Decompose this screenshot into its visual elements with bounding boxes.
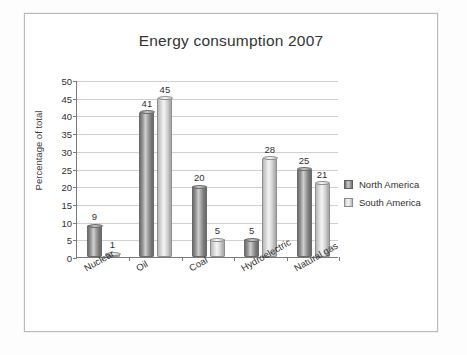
bar-value-label: 45	[160, 84, 171, 95]
scanned-page: Energy consumption 2007 Percentage of to…	[0, 0, 467, 355]
y-tick-label: 20	[61, 182, 72, 193]
x-tick-mark	[339, 257, 340, 261]
y-tick-label: 40	[61, 111, 72, 122]
bar-cap	[245, 238, 260, 242]
y-axis-title: Percentage of total	[33, 83, 47, 218]
y-tick-label: 25	[61, 164, 72, 175]
plot-wrap: 05101520253035404550 9141452055282521 Nu…	[76, 81, 338, 258]
chart-title: Energy consumption 2007	[25, 32, 437, 50]
y-tick-label: 50	[61, 76, 72, 87]
bar-value-label: 5	[215, 225, 220, 236]
bar-cap	[88, 224, 103, 228]
x-tick-mark	[182, 257, 183, 261]
y-tick-label: 45	[61, 93, 72, 104]
bar-cap	[140, 110, 155, 114]
plot-area: 05101520253035404550 9141452055282521 Nu…	[76, 81, 338, 258]
bar-cap	[315, 181, 330, 185]
chart-legend: North AmericaSouth America	[344, 177, 448, 213]
bar-value-label: 41	[142, 98, 153, 109]
legend-item[interactable]: South America	[344, 195, 448, 210]
bar[interactable]: 5	[210, 239, 225, 257]
x-tick-mark	[234, 257, 235, 261]
bar-group: 91	[84, 81, 136, 257]
y-tick-label: 5	[67, 235, 72, 246]
bar-cap	[158, 96, 173, 100]
y-tick-label: 10	[61, 217, 72, 228]
legend-item[interactable]: North America	[344, 177, 448, 192]
bar-value-label: 20	[194, 172, 205, 183]
y-tick-mark	[73, 258, 77, 259]
bar-cap	[210, 238, 225, 242]
legend-swatch-icon	[344, 198, 353, 207]
bar-cap	[192, 185, 207, 189]
bar-group: 205	[189, 81, 241, 257]
x-category-label: Oil	[134, 258, 150, 273]
bar-series-group: 9141452055282521	[77, 81, 338, 257]
bar[interactable]: 45	[157, 98, 172, 257]
y-tick-label: 15	[61, 199, 72, 210]
y-tick-label: 30	[61, 146, 72, 157]
bar-cap	[297, 167, 312, 171]
bar-value-label: 9	[92, 211, 97, 222]
legend-swatch-icon	[344, 180, 353, 189]
bar-group: 528	[241, 81, 293, 257]
legend-label: North America	[359, 179, 419, 190]
x-category-label: Coal	[187, 254, 209, 273]
x-tick-mark	[287, 257, 288, 261]
bar-value-label: 25	[299, 155, 310, 166]
x-tick-mark	[129, 257, 130, 261]
bar[interactable]: 25	[297, 169, 312, 258]
y-tick-label: 35	[61, 129, 72, 140]
bar-cap	[263, 156, 278, 160]
bar-value-label: 28	[264, 144, 275, 155]
legend-label: South America	[359, 197, 421, 208]
bar-group: 4145	[136, 81, 188, 257]
bar[interactable]: 41	[139, 112, 154, 257]
chart-frame: Energy consumption 2007 Percentage of to…	[24, 13, 438, 332]
bar[interactable]: 20	[192, 186, 207, 257]
bar-group: 2521	[294, 81, 346, 257]
bar-value-label: 21	[317, 169, 328, 180]
bar-value-label: 5	[249, 225, 254, 236]
y-tick-label: 0	[67, 253, 72, 264]
